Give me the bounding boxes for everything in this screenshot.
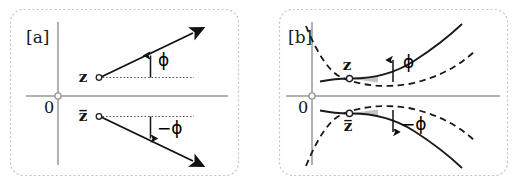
panel-b-z-label: z bbox=[343, 56, 352, 74]
panel-b-minus-phi-label: −ϕ bbox=[401, 114, 426, 134]
panel-b-origin-marker bbox=[309, 93, 315, 99]
panel-a-zbar-point bbox=[96, 114, 102, 120]
panel-b-label: [b] bbox=[288, 27, 312, 47]
figure-container: [a] 0 z z̅ ϕ −ϕ bbox=[0, 0, 523, 194]
panel-a-z-label: z bbox=[79, 68, 88, 86]
panel-a: [a] 0 z z̅ ϕ −ϕ bbox=[0, 0, 262, 194]
panel-b: [b] 0 z z̅ ϕ −ϕ bbox=[262, 0, 523, 194]
panel-b-phi-label: ϕ bbox=[403, 52, 414, 72]
panel-b-origin-label: 0 bbox=[298, 98, 308, 117]
panel-a-z-point bbox=[96, 75, 102, 81]
panel-a-origin-marker bbox=[55, 93, 61, 99]
panel-b-zbar-label: z̅ bbox=[344, 117, 353, 135]
panel-a-phi-label: ϕ bbox=[158, 50, 169, 70]
panel-a-label: [a] bbox=[26, 27, 49, 47]
panel-a-minus-phi-label: −ϕ bbox=[157, 118, 182, 138]
panel-a-origin-label: 0 bbox=[44, 98, 54, 117]
panel-a-zbar-label: z̅ bbox=[79, 107, 88, 125]
panel-b-zbar-point bbox=[346, 110, 352, 116]
panel-b-z-point bbox=[346, 76, 352, 82]
